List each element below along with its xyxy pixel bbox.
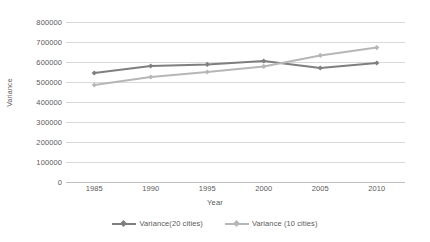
legend-swatch-icon [225,219,249,228]
line-chart: Variance 0100000200000300000400000500000… [0,0,430,242]
legend-item[interactable]: Variance (10 cities) [225,219,318,228]
data-point [148,74,153,79]
data-point [92,70,97,75]
plot-area [66,22,405,182]
data-point [374,60,379,65]
y-axis-tick-labels: 0100000200000300000400000500000600000700… [16,0,62,185]
x-axis-tick-label: 1995 [199,184,216,193]
series-layer [66,22,405,182]
y-axis-tick-label: 200000 [36,138,62,147]
y-axis-tick-label: 300000 [36,118,62,127]
y-axis-tick-label: 700000 [36,38,62,47]
y-axis-tick-label: 600000 [36,58,62,67]
chart-legend: Variance(20 cities)Variance (10 cities) [0,219,430,228]
data-point [318,53,323,58]
legend-label: Variance(20 cities) [139,219,202,228]
series-line [94,61,377,73]
y-axis-tick-label: 100000 [36,158,62,167]
data-point [205,69,210,74]
data-point [374,45,379,50]
y-axis-tick-label: 500000 [36,78,62,87]
legend-swatch-icon [112,219,136,228]
y-axis-tick-label: 0 [58,178,62,187]
legend-label: Variance (10 cities) [252,219,318,228]
y-axis-title: Variance [2,0,16,185]
gridline [66,182,405,183]
data-point [148,63,153,68]
y-axis-title-label: Variance [6,78,13,107]
x-axis-title: Year [0,198,430,207]
x-axis-tick-label: 1990 [142,184,159,193]
x-axis-tick-label: 2010 [368,184,385,193]
x-axis-tick-label: 2000 [255,184,272,193]
data-point [318,65,323,70]
x-axis-tick-label: 1985 [86,184,103,193]
legend-item[interactable]: Variance(20 cities) [112,219,202,228]
y-axis-tick-label: 800000 [36,18,62,27]
data-point [261,64,266,69]
data-point [261,58,266,63]
series-1 [92,58,380,75]
x-axis-title-label: Year [207,198,223,207]
x-axis-tick-label: 2005 [312,184,329,193]
data-point [205,62,210,67]
y-axis-tick-label: 400000 [36,98,62,107]
data-point [92,82,97,87]
